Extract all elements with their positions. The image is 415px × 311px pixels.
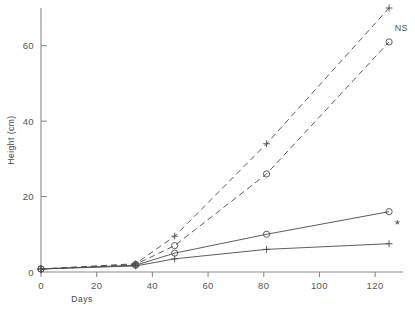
x-tick-label-60: 60 [202,280,213,291]
growth-line-chart: 0204060801001200204060DaysHeight (cm)NS* [0,0,415,311]
x-tick-label-120: 120 [367,280,384,291]
y-tick-label-0: 0 [28,267,34,278]
x-tick-label-100: 100 [311,280,328,291]
x-tick-label-20: 20 [91,280,102,291]
x-tick-label-40: 40 [147,280,158,291]
marker-dashed-circle-2 [172,243,178,249]
y-tick-label-40: 40 [23,116,34,127]
annotation-asterisk: * [395,217,400,232]
x-tick-label-0: 0 [38,280,44,291]
annotation-ns: NS [395,23,408,33]
y-axis-title: Height (cm) [6,115,16,164]
x-tick-label-80: 80 [258,280,269,291]
y-tick-label-60: 60 [23,40,34,51]
chart-container: 0204060801001200204060DaysHeight (cm)NS* [0,0,415,311]
x-axis-title: Days [71,294,92,304]
y-tick-label-20: 20 [23,191,34,202]
series-line-dashed-circle [41,42,389,269]
series-line-solid-circle [41,212,389,269]
series-line-dashed-plus [41,8,389,269]
series-line-solid-plus [41,244,389,269]
